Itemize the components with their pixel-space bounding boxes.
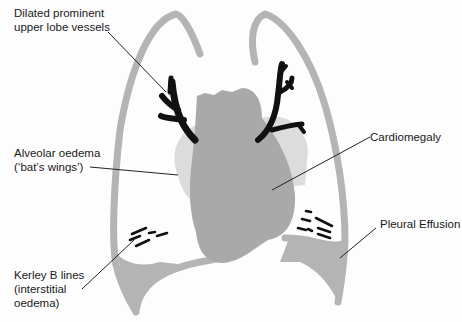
label-kerley-b-line3: oedema) — [14, 296, 84, 310]
label-kerley-b-lines: Kerley B lines (interstitial oedema) — [14, 268, 84, 310]
label-pleural-effusion-line1: Pleural Effusion — [380, 217, 460, 231]
chest-xray-diagram: Dilated prominent upper lobe vessels Alv… — [0, 0, 462, 322]
label-alveolar-oedema-line2: (‘bat’s wings’) — [14, 160, 100, 174]
label-upper-lobe-vessels-line1: Dilated prominent — [14, 6, 110, 20]
label-cardiomegaly: Cardiomegaly — [370, 130, 441, 144]
leader-alveolar-oedema — [90, 167, 178, 175]
label-upper-lobe-vessels-line2: upper lobe vessels — [14, 20, 110, 34]
label-upper-lobe-vessels: Dilated prominent upper lobe vessels — [14, 6, 110, 34]
label-pleural-effusion: Pleural Effusion — [380, 217, 460, 231]
label-alveolar-oedema: Alveolar oedema (‘bat’s wings’) — [14, 146, 100, 174]
label-kerley-b-line1: Kerley B lines — [14, 268, 84, 282]
leader-upper-lobe-vessels — [108, 32, 166, 92]
label-alveolar-oedema-line1: Alveolar oedema — [14, 146, 100, 160]
label-cardiomegaly-line1: Cardiomegaly — [370, 130, 441, 144]
label-kerley-b-line2: (interstitial — [14, 282, 84, 296]
heart-shape — [190, 88, 295, 263]
pleural-effusion-shape — [280, 236, 346, 302]
